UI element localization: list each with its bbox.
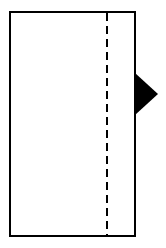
triangle-marker-icon [135, 73, 158, 115]
paper-rectangle [10, 12, 135, 236]
diagram-canvas [0, 0, 166, 248]
